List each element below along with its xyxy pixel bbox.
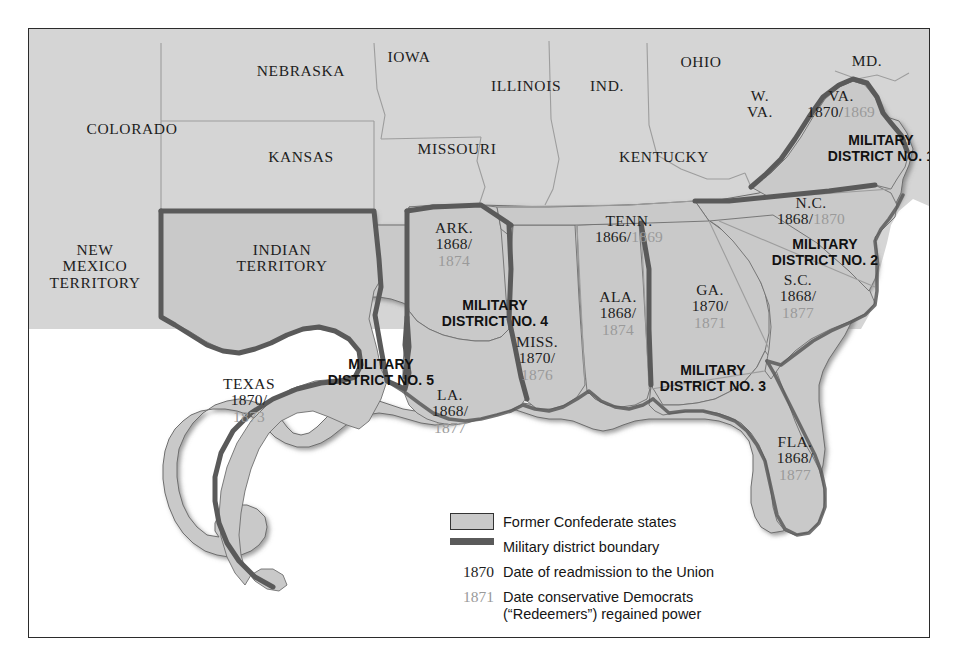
legend-row-readmission: 1870 Date of readmission to the Union <box>441 563 771 581</box>
legend-label-district-boundary: Military district boundary <box>503 538 659 556</box>
legend-row-redeemers: 1871 Date conservative Democrats (“Redee… <box>441 588 771 623</box>
map-frame: COLORADO NEBRASKA IOWA KANSAS MISSOURI I… <box>28 28 930 638</box>
legend-key-confederate <box>441 513 503 530</box>
confederate-swatch-icon <box>450 513 494 530</box>
legend-row-district-boundary: Military district boundary <box>441 538 771 556</box>
legend-row-confederate: Former Confederate states <box>441 513 771 531</box>
map-figure: COLORADO NEBRASKA IOWA KANSAS MISSOURI I… <box>0 0 956 659</box>
legend-year-redeemers: 1871 <box>463 588 494 606</box>
legend-key-readmission: 1870 <box>441 563 503 581</box>
legend-label-confederate: Former Confederate states <box>503 513 676 531</box>
legend-key-redeemers: 1871 <box>441 588 503 606</box>
legend-label-redeemers: Date conservative Democrats (“Redeemers”… <box>503 588 701 623</box>
map-legend: Former Confederate states Military distr… <box>441 513 771 631</box>
legend-label-readmission: Date of readmission to the Union <box>503 563 714 581</box>
state-arkansas <box>407 205 509 341</box>
boundary-line-icon <box>450 538 494 545</box>
legend-key-district-boundary <box>441 538 503 545</box>
legend-year-readmission: 1870 <box>463 563 494 581</box>
state-alabama <box>577 223 651 407</box>
